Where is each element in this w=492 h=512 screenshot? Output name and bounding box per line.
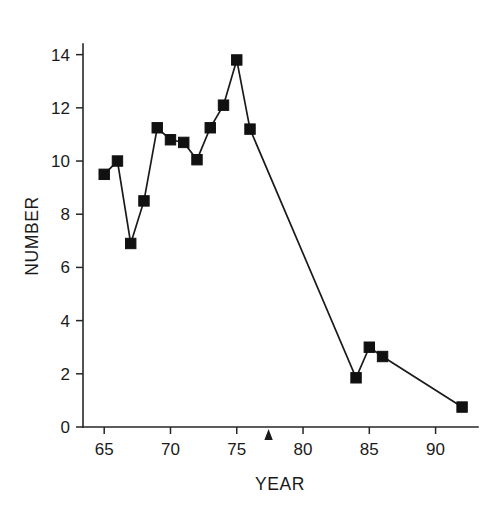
x-tick-label: 75	[227, 440, 246, 459]
y-tick-label: 12	[51, 99, 70, 118]
x-tick-label: 90	[426, 440, 445, 459]
data-point-marker	[112, 156, 122, 166]
data-point-marker	[364, 342, 374, 352]
y-tick-label: 0	[61, 418, 70, 437]
y-axis-title: NUMBER	[22, 196, 42, 275]
data-point-marker	[351, 373, 361, 383]
data-point-marker	[126, 238, 136, 248]
data-point-marker	[192, 155, 202, 165]
data-point-marker	[232, 55, 242, 65]
y-tick-label: 2	[61, 365, 70, 384]
y-tick-label: 10	[51, 152, 70, 171]
annotation-layer	[264, 429, 272, 440]
data-point-marker	[377, 351, 387, 361]
y-tick-label: 4	[61, 312, 70, 331]
line-chart-plot: 02468101214 657075808590 YEAR NUMBER	[0, 0, 492, 512]
y-tick-label: 8	[61, 205, 70, 224]
data-point-marker	[139, 196, 149, 206]
data-point-marker	[457, 402, 467, 412]
x-axis-tick-labels: 657075808590	[95, 440, 445, 459]
data-point-marker	[99, 169, 109, 179]
data-point-marker	[152, 123, 162, 133]
y-tick-label: 14	[51, 46, 70, 65]
data-point-marker	[179, 137, 189, 147]
chart-figure: 02468101214 657075808590 YEAR NUMBER	[0, 0, 492, 512]
y-tick-label: 6	[61, 258, 70, 277]
axis-pointer-triangle	[264, 429, 272, 440]
y-axis-ticks	[76, 55, 83, 427]
data-markers-number	[99, 55, 467, 412]
data-point-marker	[205, 123, 215, 133]
x-tick-label: 85	[360, 440, 379, 459]
x-tick-label: 70	[161, 440, 180, 459]
data-line-number	[104, 60, 462, 407]
data-point-marker	[245, 124, 255, 134]
data-point-marker	[218, 100, 228, 110]
x-tick-label: 80	[294, 440, 313, 459]
x-axis-title: YEAR	[255, 474, 305, 494]
data-point-marker	[165, 135, 175, 145]
y-axis-tick-labels: 02468101214	[51, 46, 70, 437]
x-tick-label: 65	[95, 440, 114, 459]
